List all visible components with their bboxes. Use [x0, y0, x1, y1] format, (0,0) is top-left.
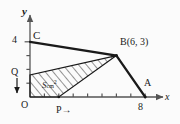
shaded-region-unit: cm [47, 83, 54, 89]
point-p-marker [58, 96, 61, 99]
y-axis-label: y [22, 6, 27, 17]
p-motion-arrow: → [62, 104, 72, 115]
point-label-q: Q [11, 67, 18, 77]
point-label-c: C [33, 30, 40, 41]
point-label-b-coords: (6, 3) [127, 36, 149, 47]
point-label-p: P→ [56, 105, 72, 115]
y-axis-ticks [25, 42, 30, 83]
origin-label: O [21, 100, 28, 110]
y-axis [25, 15, 30, 97]
point-label-b: B(6, 3) [120, 37, 148, 47]
shaded-region-unit-exponent: 2 [54, 79, 57, 85]
shaded-region-fill [30, 56, 116, 97]
point-a-marker [144, 96, 147, 99]
shaded-region-label: Scm2 [42, 79, 57, 90]
point-b-marker [115, 54, 118, 57]
geometry-figure: y x O 4 8 C B(6, 3) A Q P→ Scm2 [0, 0, 180, 124]
point-label-b-name: B [120, 36, 127, 47]
x-tick-label-8: 8 [138, 102, 143, 112]
y-tick-label-4: 4 [12, 35, 17, 45]
x-axis-label: x [165, 92, 169, 102]
point-label-a: A [144, 78, 151, 88]
